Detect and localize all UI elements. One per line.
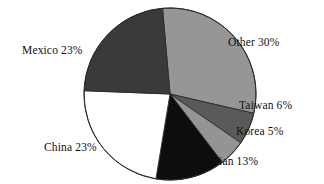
pie-label-asian: Asian 13%: [206, 155, 258, 168]
pie-label-korea: Korea 5%: [236, 125, 284, 138]
pie-slice-mexico: [84, 8, 170, 94]
pie-label-taiwan: Taiwan 6%: [239, 99, 292, 112]
pie-label-china: China 23%: [44, 141, 97, 154]
pie-chart-figure: Other 30% Mexico 23% Taiwan 6% Korea 5% …: [0, 0, 324, 184]
pie-label-mexico: Mexico 23%: [22, 44, 83, 57]
pie-chart-canvas: [0, 0, 324, 184]
pie-slice-china: [84, 91, 170, 179]
pie-label-other: Other 30%: [228, 36, 280, 49]
